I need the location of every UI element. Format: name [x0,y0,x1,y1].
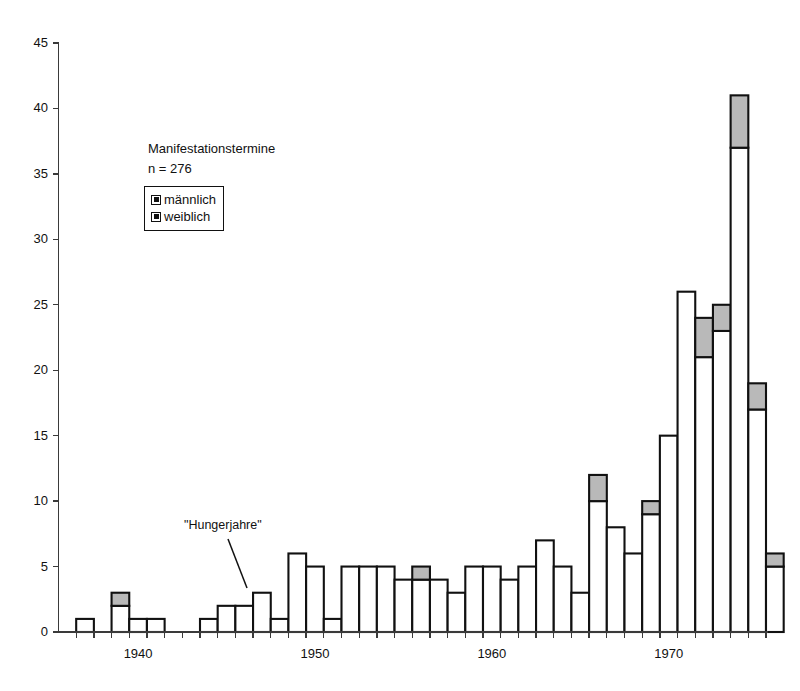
bar-1953 [359,567,377,632]
y-tick-label-45: 45 [18,35,48,50]
y-tick-label-25: 25 [18,297,48,312]
bar-segment-weiblich [395,580,413,632]
bar-segment-maennlich [748,383,766,409]
bar-segment-weiblich [483,567,501,632]
bar-segment-weiblich [200,619,218,632]
bar-segment-weiblich [147,619,165,632]
bar-1940 [129,619,147,632]
legend: männlich weiblich [144,186,224,231]
annotation-leader-line-layer [228,539,247,588]
bar-segment-weiblich [235,606,253,632]
bar-1952 [342,567,360,632]
bar-segment-weiblich [129,619,147,632]
x-tick-label-1950: 1950 [285,646,345,661]
bar-segment-weiblich [465,567,483,632]
bar-1945 [218,606,236,632]
y-tick-label-0: 0 [18,624,48,639]
bar-segment-maennlich [412,567,430,580]
bar-1971 [678,292,696,632]
open-square-icon [151,212,161,222]
bar-segment-weiblich [271,619,289,632]
bar-1946 [235,606,253,632]
y-tick-label-10: 10 [18,493,48,508]
bar-segment-weiblich [554,567,572,632]
bar-segment-maennlich [112,593,130,606]
bar-segment-weiblich [288,553,306,632]
bar-1970 [660,436,678,632]
bar-1964 [554,567,572,632]
bar-1954 [377,567,395,632]
bar-1962 [518,567,536,632]
bar-1965 [571,593,589,632]
y-tick-label-5: 5 [18,559,48,574]
legend-item-maennlich: männlich [151,191,216,208]
bar-1957 [430,580,448,632]
bar-1976 [766,553,784,632]
bar-1955 [395,580,413,632]
y-tick-label-15: 15 [18,428,48,443]
bar-segment-maennlich [766,553,784,566]
bar-1951 [324,619,342,632]
bar-1974 [731,95,749,632]
bar-segment-maennlich [713,305,731,331]
bar-segment-weiblich [660,436,678,632]
bar-segment-weiblich [324,619,342,632]
y-tick-label-20: 20 [18,362,48,377]
bar-1968 [625,553,643,632]
bar-1950 [306,567,324,632]
annotation-hungerjahre: "Hungerjahre" [184,518,262,532]
bar-segment-weiblich [625,553,643,632]
bar-segment-weiblich [448,593,466,632]
x-tick-label-1940: 1940 [108,646,168,661]
bar-1937 [76,619,94,632]
bar-segment-maennlich [642,501,660,514]
bar-1947 [253,593,271,632]
bar-1941 [147,619,165,632]
y-tick-label-40: 40 [18,100,48,115]
bar-segment-weiblich [695,357,713,632]
bar-segment-weiblich [501,580,519,632]
legend-label-maennlich: männlich [164,191,216,208]
bar-segment-weiblich [766,567,784,632]
bar-segment-weiblich [731,148,749,632]
y-tick-label-35: 35 [18,166,48,181]
bar-segment-weiblich [642,514,660,632]
bar-segment-weiblich [76,619,94,632]
caption-sample-size: n = 276 [148,161,192,176]
filled-square-icon [151,195,161,205]
bar-segment-weiblich [571,593,589,632]
bar-segment-weiblich [306,567,324,632]
bar-segment-weiblich [748,409,766,632]
bar-segment-weiblich [430,580,448,632]
bar-1961 [501,580,519,632]
bar-segment-weiblich [518,567,536,632]
bar-1969 [642,501,660,632]
bar-1948 [271,619,289,632]
bar-segment-weiblich [218,606,236,632]
annotation-leader-line [228,539,247,588]
bar-segment-weiblich [713,331,731,632]
caption-title: Manifestationstermine [148,141,275,156]
legend-item-weiblich: weiblich [151,208,216,225]
bar-1967 [607,527,625,632]
legend-label-weiblich: weiblich [164,208,210,225]
bar-segment-weiblich [536,540,554,632]
bar-segment-weiblich [112,606,130,632]
histogram-plot-area [0,0,800,691]
bar-segment-weiblich [377,567,395,632]
bar-segment-weiblich [342,567,360,632]
bar-1973 [713,305,731,632]
bar-1956 [412,567,430,632]
bar-1944 [200,619,218,632]
bar-1958 [448,593,466,632]
bar-segment-weiblich [359,567,377,632]
bar-segment-maennlich [589,475,607,501]
x-tick-label-1970: 1970 [639,646,699,661]
bar-segment-weiblich [678,292,696,632]
bar-segment-weiblich [589,501,607,632]
bar-segment-maennlich [695,318,713,357]
bar-1972 [695,318,713,632]
x-tick-label-1960: 1960 [462,646,522,661]
bar-1960 [483,567,501,632]
chart-figure: 051015202530354045 1940195019601970 Mani… [0,0,800,691]
